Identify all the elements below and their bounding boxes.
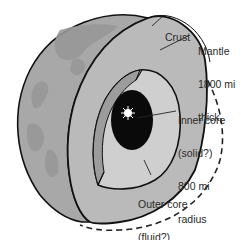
inner-core-sparkle-icon bbox=[121, 106, 135, 120]
mantle-label-line-1: Mantle bbox=[198, 46, 235, 57]
outer-core-label-line-2: (fluid?) bbox=[138, 232, 188, 240]
inner-core bbox=[111, 90, 153, 150]
crust-label-line-1: Crust bbox=[165, 32, 190, 43]
outer-core-label-line-1: Outer core bbox=[138, 199, 188, 210]
mantle-label-line-2: 1800 mi bbox=[198, 79, 235, 90]
outer-core-label: Outer core (fluid?) 1350 mi thick bbox=[138, 177, 188, 240]
crust-label: Crust bbox=[165, 10, 190, 54]
inner-core-label-line-1: Inner core bbox=[178, 115, 225, 126]
inner-core-label-line-2: (solid?) bbox=[178, 148, 225, 159]
